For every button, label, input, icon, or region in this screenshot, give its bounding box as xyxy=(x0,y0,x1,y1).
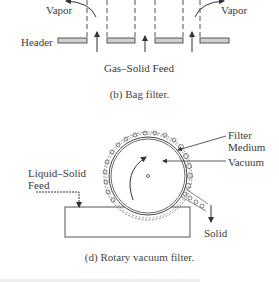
feed-arrow xyxy=(36,192,79,207)
rotary-filter-caption: (d) Rotary vacuum filter. xyxy=(0,251,279,263)
vapor-arrow-right xyxy=(195,1,224,17)
header-label: Header xyxy=(21,36,53,48)
solid-label: Solid xyxy=(204,227,227,239)
bag-outlines xyxy=(87,0,200,38)
drum-outer xyxy=(109,137,187,215)
bag-filter-caption: (b) Bag filter. xyxy=(0,88,279,100)
gas-solid-feed-label: Gas–Solid Feed xyxy=(104,62,174,74)
liquid-solid-feed-label-line1: Liquid–Solid xyxy=(28,167,86,179)
filter-medium-label-line1: Filter xyxy=(228,129,252,141)
vacuum-label: Vacuum xyxy=(228,156,264,168)
bag-filter-diagram xyxy=(58,0,229,52)
vapor-label-right: Vapor xyxy=(221,4,247,16)
liquid-solid-feed-label-line2: Feed xyxy=(28,179,49,191)
feed-tank xyxy=(65,207,190,237)
filter-medium-pointer xyxy=(178,136,226,150)
vapor-label-left: Vapor xyxy=(46,4,72,16)
header-plates xyxy=(58,38,229,43)
rotary-filter-diagram xyxy=(36,131,226,237)
filter-medium-label-line2: Medium xyxy=(228,141,265,153)
